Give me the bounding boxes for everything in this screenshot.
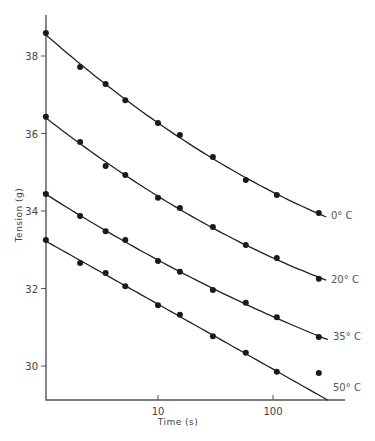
series-labels: 0° C20° C35° C50° C (331, 210, 361, 393)
data-point (243, 177, 249, 183)
data-point (243, 300, 249, 306)
data-point (274, 255, 280, 261)
data-point (103, 81, 109, 87)
data-point (43, 30, 49, 36)
data-point (210, 224, 216, 230)
y-tick-label: 36 (25, 129, 38, 140)
data-point (77, 139, 83, 145)
data-point (210, 333, 216, 339)
data-point (77, 213, 83, 219)
axes: 303234363810100 (25, 15, 345, 417)
x-axis-label: Time (s) (157, 417, 199, 427)
series-label: 0° C (331, 210, 353, 221)
data-point (274, 314, 280, 320)
data-point (177, 132, 183, 138)
data-point (316, 334, 322, 340)
data-point (43, 114, 49, 120)
data-point (103, 270, 109, 276)
x-tick-label: 100 (263, 406, 282, 417)
y-tick-label: 30 (25, 361, 38, 372)
data-point (155, 195, 161, 201)
data-points (43, 30, 322, 376)
tension-time-chart: 303234363810100 0° C20° C35° C50° C Time… (0, 0, 375, 441)
data-point (274, 369, 280, 375)
data-point (177, 205, 183, 211)
data-point (316, 210, 322, 216)
data-point (122, 97, 128, 103)
data-point (155, 258, 161, 264)
data-point (122, 172, 128, 178)
y-tick-label: 32 (25, 284, 38, 295)
fit-curve (43, 192, 328, 339)
data-point (210, 154, 216, 160)
data-point (103, 163, 109, 169)
series-label: 50° C (333, 382, 361, 393)
fit-curves (43, 32, 328, 400)
data-point (43, 237, 49, 243)
data-point (243, 242, 249, 248)
series-label: 35° C (333, 331, 361, 342)
data-point (122, 237, 128, 243)
data-point (210, 287, 216, 293)
data-point (155, 120, 161, 126)
data-point (77, 260, 83, 266)
data-point (43, 191, 49, 197)
data-point (155, 302, 161, 308)
x-tick-label: 10 (152, 406, 165, 417)
data-point (177, 269, 183, 275)
fit-curve (43, 32, 326, 217)
y-axis-label: Tension (g) (14, 188, 24, 244)
y-tick-label: 34 (25, 206, 38, 217)
data-point (77, 64, 83, 70)
data-point (177, 312, 183, 318)
data-point (316, 370, 322, 376)
data-point (316, 276, 322, 282)
data-point (122, 283, 128, 289)
data-point (274, 192, 280, 198)
data-point (243, 350, 249, 356)
y-tick-label: 38 (25, 51, 38, 62)
series-label: 20° C (331, 274, 359, 285)
data-point (103, 228, 109, 234)
